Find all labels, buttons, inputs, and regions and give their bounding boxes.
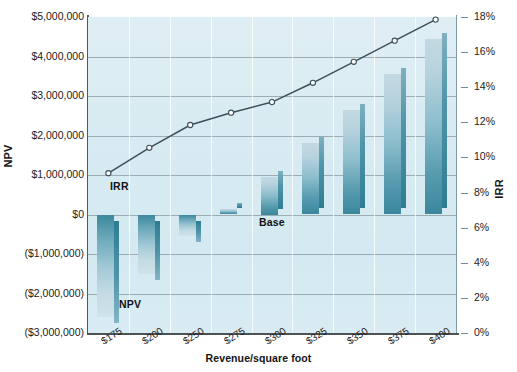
irr-data-point (392, 38, 397, 43)
y-tick-mark-right (461, 87, 468, 88)
y-tick-label-left: ($1,000,000) (0, 247, 84, 259)
irr-line-path (108, 20, 435, 174)
y-tick-label-right: 6% (474, 221, 514, 233)
x-axis-line (87, 333, 459, 335)
x-axis-title: Revenue/square foot (0, 352, 517, 364)
y-tick-mark-right (461, 228, 468, 229)
y-tick-mark-right (461, 193, 468, 194)
y-tick-label-left: ($2,000,000) (0, 287, 84, 299)
y-tick-mark-right (461, 52, 468, 53)
irr-data-point (351, 59, 356, 64)
annotation-irr: IRR (110, 180, 129, 192)
y-tick-label-left: $1,000,000 (0, 168, 84, 180)
irr-data-point (106, 171, 111, 176)
plot-area (88, 17, 456, 333)
y-tick-label-left: $0 (0, 208, 84, 220)
y-tick-mark-right (461, 157, 468, 158)
y-tick-label-left: $5,000,000 (0, 10, 84, 22)
irr-data-point (229, 110, 234, 115)
y-axis-title-irr: IRR (493, 179, 505, 199)
y-tick-label-left: ($3,000,000) (0, 326, 84, 338)
irr-data-point (147, 145, 152, 150)
npv-irr-sensitivity-chart: $5,000,000$4,000,000$3,000,000$2,000,000… (0, 0, 517, 372)
y-tick-mark-right (461, 122, 468, 123)
irr-data-point (433, 17, 438, 22)
y-tick-label-left: $2,000,000 (0, 129, 84, 141)
y-tick-label-left: $3,000,000 (0, 89, 84, 101)
y-tick-label-right: 12% (474, 115, 514, 127)
y-tick-label-right: 18% (474, 10, 514, 22)
y-tick-label-right: 14% (474, 80, 514, 92)
y-tick-label-right: 2% (474, 291, 514, 303)
irr-data-point (269, 100, 274, 105)
y-tick-mark-right (461, 333, 468, 334)
y-tick-mark-right (461, 298, 468, 299)
annotation-npv: NPV (119, 298, 141, 310)
y-tick-label-right: 4% (474, 256, 514, 268)
y-tick-label-right: 0% (474, 326, 514, 338)
y-axis-title-npv: NPV (2, 144, 14, 167)
y-axis-line-right (456, 15, 457, 335)
y-tick-label-right: 10% (474, 150, 514, 162)
irr-data-point (188, 122, 193, 127)
y-tick-mark-right (461, 263, 468, 264)
y-tick-label-left: $4,000,000 (0, 50, 84, 62)
annotation-base: Base (259, 216, 285, 228)
y-tick-label-right: 16% (474, 45, 514, 57)
y-tick-mark-right (461, 17, 468, 18)
irr-line-series (88, 17, 456, 333)
irr-data-point (310, 80, 315, 85)
